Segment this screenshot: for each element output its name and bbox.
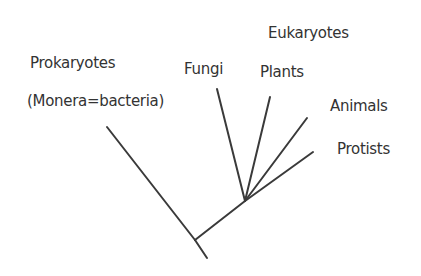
monera-label: (Monera=bacteria)	[27, 94, 164, 109]
prokaryotes-label: Prokaryotes	[30, 56, 115, 71]
fungi-label: Fungi	[184, 62, 223, 77]
eukaryote-stem-branch	[195, 201, 245, 240]
protists-label: Protists	[337, 142, 390, 157]
fungi-branch	[217, 89, 245, 201]
prokaryotes-branch	[107, 127, 195, 240]
root-tail-branch	[195, 240, 207, 258]
phylogenetic-tree	[0, 0, 421, 276]
animals-label: Animals	[330, 99, 388, 114]
plants-label: Plants	[260, 65, 304, 80]
eukaryotes-label: Eukaryotes	[268, 26, 349, 41]
